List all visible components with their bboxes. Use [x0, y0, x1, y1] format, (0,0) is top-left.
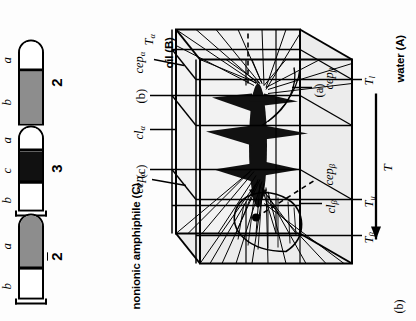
annotation-cep-beta: cepβ — [322, 163, 337, 185]
prism-drawing — [0, 0, 416, 321]
figure-page: (b) b a 2 — [0, 0, 416, 321]
annotation-section-c: (c) — [134, 164, 149, 178]
annotation-cep-alpha: cepα — [132, 51, 147, 73]
annotation-T-u: Tu — [362, 196, 377, 207]
annotation-T-l: Tl — [362, 76, 377, 85]
annotation-T-beta: Tβ — [362, 232, 377, 243]
annotation-cl-alpha: clα — [132, 126, 147, 140]
annotation-cl-beta: clβ — [324, 200, 339, 213]
axis-label-temperature: T — [380, 164, 396, 171]
annotation-cep-beta-right: cepβ — [322, 67, 337, 89]
annotation-T-alpha: Tα — [142, 34, 157, 45]
annotation-section-b: (b) — [134, 88, 149, 103]
phase-diagram-figure: (b) b a 2 — [0, 0, 416, 321]
